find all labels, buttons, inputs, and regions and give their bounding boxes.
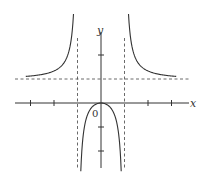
right-branch-curve [129, 14, 177, 76]
left-branch-curve [26, 14, 74, 76]
function-graph: x y 0 [0, 0, 206, 172]
x-axis-label: x [190, 97, 197, 110]
y-axis-label: y [96, 24, 104, 37]
origin-label: 0 [92, 108, 98, 119]
axes [15, 32, 189, 168]
